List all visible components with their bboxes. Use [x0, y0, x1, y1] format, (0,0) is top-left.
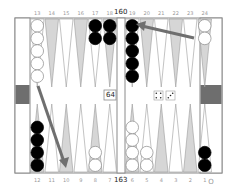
black-checker-point-18[interactable] [103, 20, 116, 33]
point-label-17: 17 [88, 10, 102, 16]
point-label-3: 3 [169, 177, 183, 183]
point-label-5: 5 [140, 177, 154, 183]
cube-value: 64 [106, 91, 115, 99]
black-checker-point-18[interactable] [103, 32, 116, 45]
white-checker-point-8[interactable] [89, 146, 102, 159]
black-checker-point-1[interactable] [198, 146, 211, 159]
black-checker-point-19[interactable] [126, 57, 139, 70]
black-checker-point-1[interactable] [198, 159, 211, 172]
white-checker-point-24[interactable] [198, 20, 211, 33]
point-label-20: 20 [140, 10, 154, 16]
black-checker-point-19[interactable] [126, 32, 139, 45]
center-bar [117, 18, 125, 173]
left-bar-marker [16, 85, 30, 104]
point-label-13: 13 [30, 10, 44, 16]
point-label-8: 8 [88, 177, 102, 183]
white-checker-point-13[interactable] [31, 70, 44, 83]
white-checker-point-24[interactable] [198, 32, 211, 45]
black-checker-point-12[interactable] [31, 146, 44, 159]
bear-off-label: O [204, 178, 218, 186]
white-checker-point-6[interactable] [126, 159, 139, 172]
white-checker-point-13[interactable] [31, 45, 44, 58]
black-checker-point-17[interactable] [89, 20, 102, 33]
black-checker-point-17[interactable] [89, 32, 102, 45]
black-checker-point-12[interactable] [31, 134, 44, 147]
point-label-21: 21 [154, 10, 168, 16]
point-label-4: 4 [154, 177, 168, 183]
white-checker-point-5[interactable] [140, 159, 153, 172]
die-2 [166, 91, 175, 100]
black-checker-point-12[interactable] [31, 121, 44, 134]
black-checker-point-19[interactable] [126, 20, 139, 33]
black-checker-point-19[interactable] [126, 45, 139, 58]
white-checker-point-13[interactable] [31, 32, 44, 45]
black-checker-point-12[interactable] [31, 159, 44, 172]
white-checker-point-6[interactable] [126, 134, 139, 147]
point-label-12: 12 [30, 177, 44, 183]
point-label-24: 24 [198, 10, 212, 16]
point-label-11: 11 [45, 177, 59, 183]
point-label-9: 9 [74, 177, 88, 183]
white-checker-point-13[interactable] [31, 20, 44, 33]
die-1 [154, 91, 163, 100]
point-label-2: 2 [183, 177, 197, 183]
white-checker-point-6[interactable] [126, 146, 139, 159]
black-checker-point-19[interactable] [126, 70, 139, 83]
white-checker-point-5[interactable] [140, 146, 153, 159]
point-label-14: 14 [45, 10, 59, 16]
point-label-10: 10 [59, 177, 73, 183]
backgammon-board [0, 0, 237, 190]
top-pip-count: 160 [114, 8, 127, 16]
bottom-pip-count: 163 [114, 176, 127, 184]
right-bar-marker [201, 85, 222, 104]
white-checker-point-6[interactable] [126, 121, 139, 134]
point-label-23: 23 [183, 10, 197, 16]
white-checker-point-13[interactable] [31, 57, 44, 70]
white-checker-point-8[interactable] [89, 159, 102, 172]
point-label-16: 16 [74, 10, 88, 16]
point-label-15: 15 [59, 10, 73, 16]
point-label-22: 22 [169, 10, 183, 16]
